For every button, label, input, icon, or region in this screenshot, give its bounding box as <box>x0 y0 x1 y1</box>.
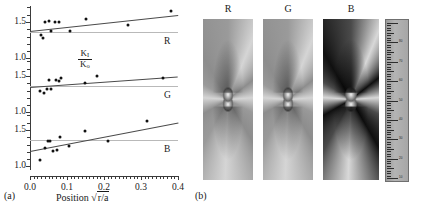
y-tick <box>27 98 31 99</box>
y-tick <box>26 166 31 167</box>
x-tick <box>137 176 138 179</box>
x-tick-label: 0.1 <box>61 182 73 192</box>
ruler-tick <box>387 86 391 87</box>
fringe-caption-r: R <box>225 3 232 14</box>
y-tick-label: 1.0 <box>14 108 26 118</box>
channel-label-r: R <box>164 36 170 46</box>
ruler-tick <box>387 115 391 116</box>
x-tick <box>148 176 149 179</box>
ruler-tick <box>387 28 391 29</box>
ruler-tick <box>387 30 391 31</box>
fringe-caption-g: G <box>284 3 291 14</box>
y-tick-label: 1.0 <box>14 54 26 64</box>
data-point <box>51 149 54 152</box>
ruler-tick <box>387 130 394 131</box>
ruler-tick <box>387 40 391 41</box>
x-tick <box>126 176 127 179</box>
data-point <box>43 21 46 24</box>
fit-line <box>30 123 178 152</box>
data-point <box>50 29 53 32</box>
data-point <box>169 10 172 13</box>
x-tick <box>93 176 94 179</box>
ruler-tick <box>387 93 391 94</box>
x-tick <box>134 176 135 179</box>
subplot-g: 1.01.5G <box>30 60 178 116</box>
fringe-caption-b: B <box>348 3 355 14</box>
ruler-number: 30 <box>399 137 402 140</box>
x-tick <box>52 176 53 179</box>
y-tick <box>27 61 31 62</box>
ruler-tick <box>387 127 391 128</box>
y-tick <box>27 83 31 84</box>
figure-root: 1.01.5R1.01.5G1.01.5B 0.00.10.20.30.4 Po… <box>0 0 427 213</box>
data-point <box>95 75 98 78</box>
crack-tip-fringe-image-g <box>263 19 313 180</box>
ruler-tick <box>387 91 394 92</box>
ruler-number: 40 <box>399 118 402 121</box>
x-tick <box>167 176 168 179</box>
ruler-tick <box>387 47 391 48</box>
ruler-tick <box>387 105 391 106</box>
crack-tip-fringe-image-b <box>323 19 379 180</box>
y-tick <box>27 69 31 70</box>
x-tick <box>141 176 142 180</box>
x-tick <box>86 176 87 179</box>
ruler-tick <box>387 139 398 140</box>
y-tick <box>26 130 31 131</box>
y-tick <box>27 145 31 146</box>
x-tick <box>71 176 72 179</box>
data-point <box>57 80 60 83</box>
panel-a-scatter-plots: 1.01.5R1.01.5G1.01.5B 0.00.10.20.30.4 Po… <box>0 0 195 213</box>
ruler-number: 80 <box>399 40 402 43</box>
ruler-tick <box>387 171 391 172</box>
y-tick-label: 1.5 <box>14 17 26 27</box>
ruler-tick <box>387 120 398 121</box>
ruler-tick <box>387 25 391 26</box>
x-axis-title: Position √r/a <box>56 192 109 203</box>
reference-line <box>30 32 178 33</box>
ruler-tick <box>387 59 391 60</box>
ruler-tick <box>387 132 391 133</box>
data-point <box>83 130 86 133</box>
x-tick <box>37 176 38 179</box>
panel-a-label: (a) <box>4 190 15 201</box>
x-tick <box>152 176 153 179</box>
fringe-lobe-bottom <box>273 106 304 161</box>
x-tick <box>174 176 175 179</box>
ruler-tick <box>387 125 391 126</box>
ruler-number: 20 <box>399 157 402 160</box>
ruler-tick <box>387 147 391 148</box>
x-axis-title-symbol: r/a <box>97 191 110 203</box>
x-tick <box>89 176 90 179</box>
channel-label-g: G <box>164 90 171 100</box>
x-tick <box>45 176 46 179</box>
y-tick <box>27 137 31 138</box>
ruler-tick <box>387 88 391 89</box>
ruler-tick <box>387 176 391 177</box>
y-tick <box>27 15 31 16</box>
data-point <box>45 88 48 91</box>
data-point <box>106 140 109 143</box>
x-tick <box>119 176 120 179</box>
ruler-tick <box>387 108 391 109</box>
ruler-tick <box>387 54 391 55</box>
ruler-number: 10 <box>399 176 402 179</box>
data-point <box>83 81 86 84</box>
data-point <box>57 21 60 24</box>
data-point <box>39 89 42 92</box>
y-tick <box>27 115 31 116</box>
x-tick <box>63 176 64 179</box>
scale-ruler: 8070605040302010 <box>385 19 409 182</box>
ruler-tick <box>387 35 391 36</box>
x-tick-label: 0.4 <box>172 182 184 192</box>
y-axis-title: KI Ko <box>78 49 92 70</box>
ruler-tick <box>387 103 391 104</box>
x-tick-label: 0.0 <box>24 182 36 192</box>
ruler-tick <box>387 117 391 118</box>
y-tick <box>26 76 31 77</box>
fringe-lobe-top <box>273 38 304 93</box>
ruler-tick <box>387 159 398 160</box>
ruler-tick <box>387 74 391 75</box>
x-tick <box>67 176 68 180</box>
ruler-tick <box>387 168 394 169</box>
